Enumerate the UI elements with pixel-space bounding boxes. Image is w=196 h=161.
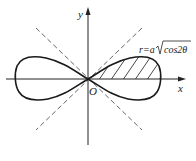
x-axis-arrow-icon [178,77,186,82]
axes [6,10,183,145]
x-axis-label: x [177,82,183,94]
y-axis-label: y [77,8,83,20]
lemniscate-diagram: y x O r=a cos2θ [0,0,196,161]
equation-lhs: r=a [139,44,155,55]
equation-label: r=a cos2θ [139,41,191,55]
equation-radicand: cos2θ [164,44,187,55]
origin-label: O [89,85,97,97]
y-axis-arrow-icon [86,7,91,15]
